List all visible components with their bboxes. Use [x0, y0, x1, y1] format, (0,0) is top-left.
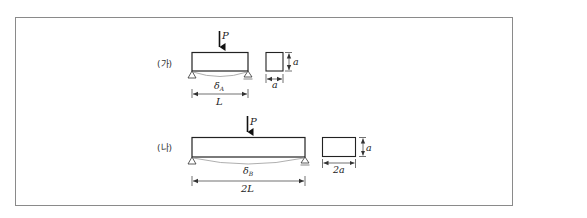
deflection-curve-ga [193, 72, 247, 77]
section-width-label-na: 2a [332, 164, 345, 175]
panel-label-ga: (가) [157, 59, 172, 69]
figure-frame [16, 18, 513, 206]
panel-na: (나) P δB 2L a 2a [157, 116, 372, 194]
beam-na [192, 138, 305, 158]
span-label-ga: L [215, 96, 223, 107]
roller-support-icon [301, 157, 309, 163]
pin-support-icon [188, 71, 196, 78]
roller-support-icon [244, 71, 252, 77]
deflection-curve-na [193, 158, 304, 164]
load-label-na: P [249, 116, 257, 127]
cross-section-ga [266, 53, 283, 72]
panel-label-na: (나) [157, 143, 172, 153]
cross-section-na [323, 138, 356, 157]
load-label-ga: P [221, 30, 229, 41]
section-width-label-ga: a [272, 79, 278, 90]
beam-comparison-diagram: (가) P δA L a a (나) P [0, 0, 587, 218]
section-height-label-na: a [366, 142, 372, 153]
span-label-na: 2L [240, 183, 254, 194]
beam-ga [192, 53, 248, 72]
deflection-label-ga: δA [214, 80, 225, 92]
section-height-label-ga: a [293, 56, 299, 67]
panel-ga: (가) P δA L a a [157, 30, 299, 107]
deflection-label-na: δB [243, 165, 254, 177]
